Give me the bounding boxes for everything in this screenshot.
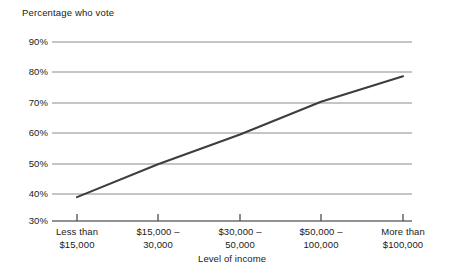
x-axis-category-label-4-line-2: $100,000 — [353, 239, 450, 252]
x-axis-ticks — [77, 214, 403, 221]
gridlines — [52, 42, 412, 194]
x-axis-title: Level of income — [198, 253, 266, 264]
x-axis-category-label-4-line-1: More than — [353, 226, 450, 239]
x-axis-category-label-4: More than $100,000 — [353, 226, 450, 251]
data-series-line — [77, 76, 403, 197]
vote-percentage-line-chart: Percentage who vote 90% 80% 70% 60% 50% … — [0, 0, 450, 274]
